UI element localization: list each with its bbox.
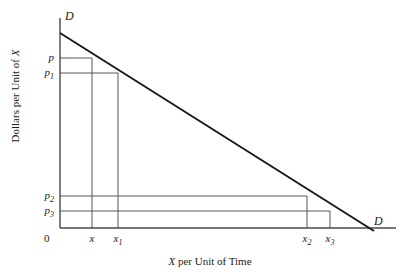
demand-curve-label-bottom: D	[374, 215, 383, 227]
quantity-label-x1: x1	[109, 233, 127, 247]
price-label-p: p	[36, 52, 54, 66]
demand-curve-figure: D D p p1 p2 p3 x x1 x2 x3 0 Dollars per …	[0, 0, 402, 280]
origin-label: 0	[44, 233, 50, 244]
y-axis-label-wrapper: Dollars per Unit of X	[10, 16, 26, 176]
demand-curve-line	[60, 33, 374, 231]
plot-canvas	[0, 0, 402, 280]
quantity-label-x3: x3	[321, 233, 339, 247]
quantity-label-x2: x2	[298, 233, 316, 247]
price-label-p3: p3	[36, 205, 54, 219]
demand-curve-label-top: D	[65, 10, 74, 22]
price-label-p2: p2	[36, 190, 54, 204]
price-guide-lines	[60, 58, 330, 211]
y-axis-label: Dollars per Unit of X	[10, 16, 21, 176]
x-axis-label: X per Unit of Time	[120, 256, 300, 267]
quantity-guide-lines	[92, 58, 330, 228]
quantity-label-x: x	[83, 233, 101, 247]
price-label-p1: p1	[36, 67, 54, 81]
